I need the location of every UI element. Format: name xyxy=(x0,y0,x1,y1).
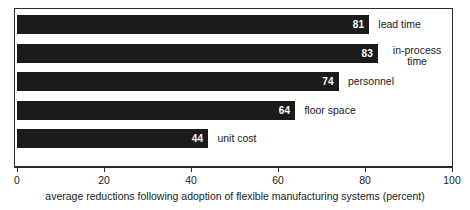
x-tick-label: 20 xyxy=(84,174,124,186)
x-tick-label: 80 xyxy=(345,174,385,186)
x-tick-label: 60 xyxy=(258,174,298,186)
bar-chart: 81lead time83in-process time74personnel6… xyxy=(0,0,470,210)
x-tick-label: 100 xyxy=(432,174,470,186)
x-tick xyxy=(452,167,453,172)
x-tick xyxy=(17,167,18,172)
x-tick xyxy=(104,167,105,172)
x-tick xyxy=(365,167,366,172)
x-tick xyxy=(191,167,192,172)
chart-caption: average reductions following adoption of… xyxy=(0,190,470,202)
plot-frame xyxy=(14,8,453,167)
x-tick-label: 0 xyxy=(0,174,37,186)
x-tick xyxy=(278,167,279,172)
x-axis-line xyxy=(14,167,453,168)
x-tick-label: 40 xyxy=(171,174,211,186)
